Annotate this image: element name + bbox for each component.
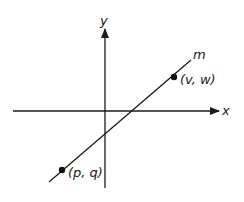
diagram-graphics xyxy=(0,0,244,202)
point-vw-label: (v, w) xyxy=(180,73,216,86)
point-vw-dot xyxy=(171,74,177,80)
point-pq-dot xyxy=(59,167,65,173)
line-m-label: m xyxy=(193,48,206,61)
coordinate-diagram: y x m (v, w) (p, q) xyxy=(0,0,244,202)
line-m xyxy=(49,60,191,182)
point-pq-label: (p, q) xyxy=(68,166,103,179)
x-axis-label: x xyxy=(222,104,230,117)
y-axis-label: y xyxy=(100,14,108,27)
